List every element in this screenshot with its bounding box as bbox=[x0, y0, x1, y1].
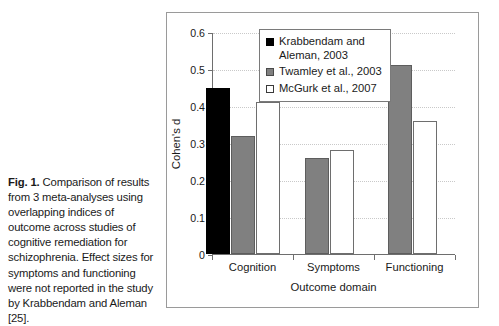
legend-swatch-icon bbox=[266, 68, 274, 76]
y-tick-label: 0.6 bbox=[190, 27, 205, 39]
y-tick-label: 0.4 bbox=[190, 101, 205, 113]
figure-frame: 00.10.20.30.40.50.6 Cohen's d CognitionS… bbox=[166, 12, 479, 308]
y-tick-label: 0.3 bbox=[190, 138, 205, 150]
figure-caption-text: Comparison of results from 3 meta-analys… bbox=[8, 176, 153, 324]
x-category-label: Cognition bbox=[229, 261, 276, 273]
legend-item: Krabbendam and Aleman, 2003 bbox=[266, 35, 382, 62]
bar bbox=[305, 158, 329, 254]
x-tick-separator bbox=[212, 255, 213, 260]
legend-label: Krabbendam and Aleman, 2003 bbox=[279, 35, 365, 62]
bar bbox=[330, 150, 354, 254]
bar bbox=[206, 88, 230, 255]
bar bbox=[231, 136, 255, 254]
x-tick-separator bbox=[374, 255, 375, 260]
x-category-label: Symptoms bbox=[307, 261, 360, 273]
chart-legend: Krabbendam and Aleman, 2003Twamley et al… bbox=[259, 29, 391, 102]
y-tick-mark bbox=[208, 70, 212, 71]
x-tick-separator bbox=[293, 255, 294, 260]
legend-item: McGurk et al., 2007 bbox=[266, 82, 382, 96]
bar bbox=[256, 102, 280, 254]
x-category-label: Functioning bbox=[386, 261, 444, 273]
y-tick-label: 0.1 bbox=[190, 212, 205, 224]
y-axis-title: Cohen's d bbox=[170, 119, 182, 170]
y-tick-label: 0.5 bbox=[190, 64, 205, 76]
legend-label: McGurk et al., 2007 bbox=[279, 82, 377, 96]
legend-label: Twamley et al., 2003 bbox=[279, 65, 382, 79]
y-tick-mark bbox=[208, 33, 212, 34]
figure-label: Fig. 1. bbox=[8, 176, 40, 188]
figure-caption: Fig. 1. Comparison of results from 3 met… bbox=[8, 175, 158, 326]
bar bbox=[413, 121, 437, 254]
x-tick-separator bbox=[455, 255, 456, 260]
x-axis-line bbox=[212, 254, 455, 255]
gridline bbox=[213, 107, 455, 108]
legend-swatch-icon bbox=[266, 38, 274, 46]
bar bbox=[388, 65, 412, 254]
y-tick-label: 0.2 bbox=[190, 175, 205, 187]
x-axis-title: Outcome domain bbox=[290, 281, 376, 293]
legend-item: Twamley et al., 2003 bbox=[266, 65, 382, 79]
legend-swatch-icon bbox=[266, 85, 274, 93]
y-tick-label: 0 bbox=[199, 249, 205, 261]
